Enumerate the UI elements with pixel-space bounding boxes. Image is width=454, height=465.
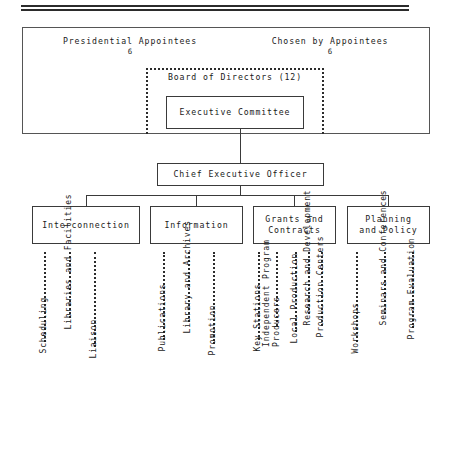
- function-label: Scheduling: [39, 297, 49, 354]
- board-of-directors-label: Board of Directors (12): [146, 72, 324, 82]
- org-chart-canvas: Presidential Appointees 6 Chosen by Appo…: [0, 0, 454, 465]
- chosen-by-appointees-header: Chosen by Appointees 6: [245, 36, 415, 56]
- connector-ceo-down: [240, 186, 241, 195]
- function-label: Publications: [158, 284, 168, 352]
- function-label: Production Centers: [316, 236, 326, 338]
- chief-executive-officer-box: Chief Executive Officer: [157, 163, 324, 186]
- function-label: Research and Development: [303, 190, 313, 326]
- function-label: Seminars and Conferences: [379, 190, 389, 326]
- presidential-appointees-count: 6: [45, 47, 215, 56]
- function-label: Promotion: [208, 305, 218, 356]
- department-box-information: Information: [150, 206, 243, 244]
- function-label: Libraries and Facilities: [64, 194, 74, 330]
- department-box-interconnection: Interconnection: [32, 206, 140, 244]
- chosen-by-appointees-count: 6: [245, 47, 415, 56]
- function-label: Independent ProgramProducers: [262, 239, 281, 347]
- function-label: Key Stations: [253, 284, 263, 352]
- presidential-appointees-header: Presidential Appointees 6: [45, 36, 215, 56]
- top-rule-lower: [21, 9, 409, 11]
- function-label: Library and Archives: [183, 220, 193, 333]
- function-label: Liaison: [89, 319, 99, 359]
- function-label: Program Evaluation: [407, 238, 417, 340]
- chosen-by-appointees-label: Chosen by Appointees: [272, 36, 389, 46]
- department-box-planning: Planning and Policy: [347, 206, 430, 244]
- connector-exec-to-ceo: [240, 129, 241, 164]
- top-rule-upper: [21, 5, 409, 7]
- executive-committee-box: Executive Committee: [166, 96, 304, 129]
- connector-department-bus: [86, 195, 389, 196]
- function-label: Local Production: [290, 253, 300, 344]
- function-label: Workshops: [351, 303, 361, 354]
- presidential-appointees-label: Presidential Appointees: [63, 36, 197, 46]
